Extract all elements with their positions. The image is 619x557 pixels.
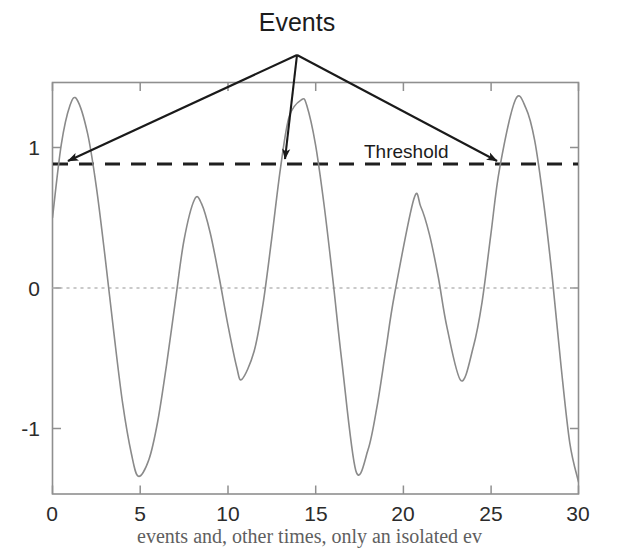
y-tick-label-1: 1 — [14, 137, 40, 158]
threshold-annotation-label: Threshold — [364, 142, 449, 161]
chart-plot-canvas — [0, 0, 619, 557]
events-annotation-label: Events — [259, 10, 335, 35]
page-caption-fragment: events and, other times, only an isolate… — [0, 525, 619, 557]
x-tick-label-30: 30 — [566, 503, 589, 524]
x-tick-label-25: 25 — [479, 503, 502, 524]
x-tick-label-5: 5 — [134, 503, 146, 524]
y-tick-label-minus1: -1 — [8, 418, 40, 439]
y-tick-label-0: 0 — [14, 278, 40, 299]
x-tick-label-10: 10 — [216, 503, 239, 524]
signal-curve — [53, 96, 579, 482]
x-tick-label-20: 20 — [391, 503, 414, 524]
x-tick-label-15: 15 — [304, 503, 327, 524]
chart-figure: Events Threshold 1 0 -1 0 5 10 15 20 25 … — [0, 0, 619, 557]
events-arrow-left — [68, 55, 297, 161]
events-arrow-mid — [285, 55, 297, 159]
x-tick-label-0: 0 — [46, 503, 58, 524]
